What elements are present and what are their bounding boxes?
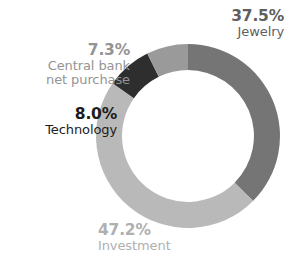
slice-name-technology: Technology: [45, 123, 117, 137]
slice-name-central-bank-line-1: Central bank: [46, 59, 130, 73]
slice-label-jewelry: 37.5% Jewelry: [231, 8, 284, 39]
slice-value-investment: 47.2%: [98, 222, 171, 239]
slice-value-central-bank: 7.3%: [46, 42, 130, 59]
slice-name-central-bank-line-2: net purchase: [46, 73, 130, 87]
slice-name-jewelry: Jewelry: [231, 25, 284, 39]
donut-slice-jewelry[interactable]: [188, 44, 280, 201]
slice-value-technology: 8.0%: [45, 106, 117, 123]
slice-label-central-bank: 7.3% Central bank net purchase: [46, 42, 130, 87]
slice-label-investment: 47.2% Investment: [98, 222, 171, 253]
slice-name-investment: Investment: [98, 239, 171, 253]
slice-name-central-bank: Central bank net purchase: [46, 59, 130, 87]
slice-label-technology: 8.0% Technology: [45, 106, 117, 137]
slice-value-jewelry: 37.5%: [231, 8, 284, 25]
donut-chart: 37.5% Jewelry 7.3% Central bank net purc…: [0, 0, 292, 268]
donut-slice-investment[interactable]: [96, 83, 253, 228]
